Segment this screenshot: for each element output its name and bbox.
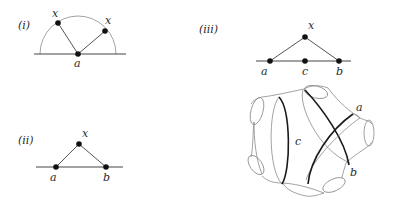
panel-i: (i) x x a [18,7,126,70]
label-b: b [103,171,110,184]
vertex-c [302,58,308,64]
panel-i-label: (i) [18,19,30,32]
edge-x-b [305,37,339,61]
label-a: a [50,171,57,184]
label-x-left: x [52,7,59,20]
edge-a-x-right [78,31,105,54]
edge-a-x [270,37,305,61]
label-x: x [308,19,315,32]
vertex-b [336,58,342,64]
surface-diagram: c a b [245,83,374,196]
panel-iii-label: (iii) [199,23,218,36]
label-x: x [82,127,89,140]
panel-iii: (iii) x a c b [199,19,351,78]
label-c: c [302,65,308,78]
vertex-x [302,34,308,40]
vertex-a [267,58,273,64]
outline-seg [342,163,346,178]
vertex-b [103,164,109,170]
outline-seg [251,122,254,157]
curve-c [279,97,288,184]
vertex-x-left [55,20,61,26]
panel-ii: (ii) x a b [18,127,123,184]
boundary-circle-bottom [321,174,348,195]
curve-a [308,114,353,184]
edge-x-b [79,144,106,167]
edge-a-x [56,144,79,167]
figure-canvas: (i) x x a (ii) x a b (iii) x a c [0,0,396,200]
vertex-a [75,51,81,57]
boundary-circle-right [364,120,374,146]
surface-label-b: b [350,166,357,179]
boundary-circle-left-bottom [245,153,267,178]
label-x-right: x [105,14,112,27]
panel-ii-label: (ii) [18,134,34,147]
vertex-x-right [102,28,108,34]
label-b: b [336,65,343,78]
vertex-a [53,164,59,170]
label-a: a [261,65,268,78]
curve-b-back [302,90,350,163]
outline-seg [283,183,324,196]
edge-x-a-left [58,23,78,54]
curve-b [305,90,349,165]
vertex-x [76,141,82,147]
surface-label-a: a [356,101,363,114]
surface-label-c: c [295,135,301,148]
boundary-circle-left-top [248,96,267,126]
label-a: a [74,57,81,70]
curve-c-back [271,97,282,184]
outline-seg [251,97,262,104]
